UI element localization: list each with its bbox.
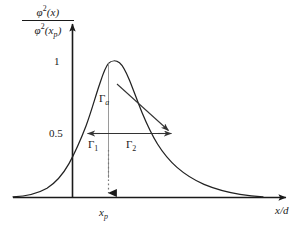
y-axis-label-numerator: φ2(x) (22, 4, 74, 19)
gamma-2-subscript: 2 (132, 144, 136, 153)
y-axis-label: φ2(x) φ2(xp) (22, 4, 74, 39)
x-tick-label-xp: xp (99, 207, 108, 221)
x-axis-label: x/d (275, 205, 288, 216)
figure-container: φ2(x) φ2(xp) 1 0.5 Γa Γ1 Γ2 xp x/d (0, 0, 306, 241)
y-axis-label-denominator: φ2(xp) (22, 20, 74, 39)
gamma-1-label: Γ1 (88, 139, 98, 153)
gamma-a-subscript: a (105, 98, 109, 107)
gamma-a-leader-line (117, 84, 169, 131)
phi-argument-numerator: (x) (47, 6, 60, 18)
y-tick-label-half: 0.5 (49, 128, 63, 139)
y-tick-label-one: 1 (54, 56, 60, 67)
paren-close: ) (58, 23, 62, 35)
gamma-1-subscript: 1 (94, 144, 98, 153)
gamma-a-label: Γa (99, 93, 109, 107)
gamma-2-label: Γ2 (126, 139, 136, 153)
p-subscript: p (104, 212, 108, 221)
